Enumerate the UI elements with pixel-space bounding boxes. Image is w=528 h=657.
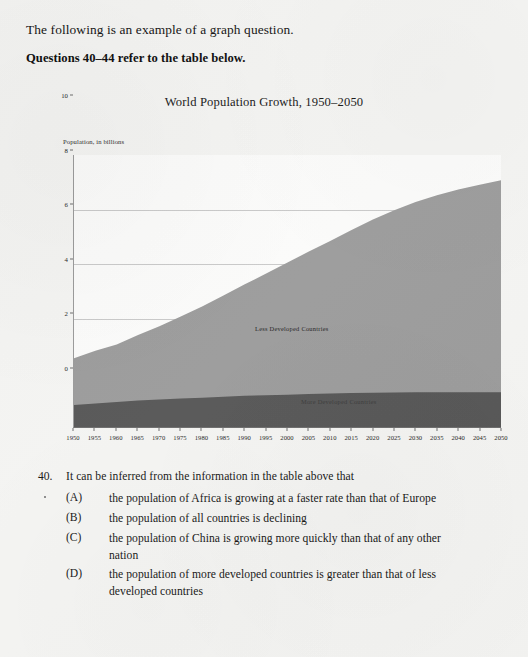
exam-page: The following is an example of a graph q… (0, 0, 528, 657)
answer-choice-letter: (A) (66, 491, 82, 504)
x-tick-label: 1970 (152, 434, 165, 441)
x-tick-label: 1965 (130, 434, 143, 441)
y-tick-mark (70, 95, 73, 96)
x-tick-label: 2010 (323, 434, 336, 441)
x-tick-mark (351, 428, 352, 431)
x-tick-label: 2035 (430, 434, 443, 441)
x-tick-mark (158, 428, 159, 431)
question-number: 40. (38, 470, 53, 483)
x-tick-label: 1955 (88, 434, 101, 441)
answer-choice-letter: (C) (66, 531, 81, 544)
x-tick-label: 1980 (195, 434, 208, 441)
answer-choice[interactable]: (D)the population of more developed coun… (0, 567, 528, 600)
plot-wrapper: Less Developed Countries More Developed … (73, 155, 501, 428)
x-tick-mark (137, 428, 138, 431)
x-tick-label: 2000 (280, 434, 293, 441)
x-tick-mark (458, 428, 459, 431)
answer-choice-text: the population of China is growing more … (109, 531, 469, 564)
stacked-area-series (74, 155, 501, 427)
y-tick-label: 8 (65, 146, 68, 153)
x-tick-label: 1975 (173, 434, 186, 441)
x-tick-mark (372, 428, 373, 431)
x-tick-mark (265, 428, 266, 431)
y-tick-mark (70, 149, 73, 150)
x-tick-mark (394, 428, 395, 431)
question-block: 40. It can be inferred from the informat… (0, 470, 528, 600)
area-less-developed (74, 180, 501, 427)
answer-choice[interactable]: (B)the population of all countries is de… (0, 511, 528, 528)
x-tick-label: 2030 (409, 434, 422, 441)
plot-area: Less Developed Countries More Developed … (73, 155, 501, 428)
series-label-less-developed: Less Developed Countries (255, 324, 328, 331)
x-tick-label: 2045 (473, 434, 486, 441)
answer-choice-text: the population of more developed countri… (109, 567, 469, 600)
x-tick-mark (180, 428, 181, 431)
x-tick-label: 2050 (494, 434, 507, 441)
x-tick-label: 1990 (237, 434, 250, 441)
x-tick-mark (436, 428, 437, 431)
answer-choice[interactable]: (C)the population of China is growing mo… (0, 531, 528, 564)
stray-mark-icon (44, 496, 46, 498)
y-tick-label: 6 (65, 201, 68, 208)
x-tick-label: 2005 (302, 434, 315, 441)
x-axis-ticks: 1950195519601965197019751980198519901995… (73, 428, 501, 448)
answer-choice-letter: (D) (66, 567, 82, 580)
question-stem: It can be inferred from the information … (66, 470, 354, 483)
x-tick-mark (501, 428, 502, 431)
x-tick-mark (415, 428, 416, 431)
x-tick-mark (115, 428, 116, 431)
x-tick-mark (201, 428, 202, 431)
answer-choice-text: the population of all countries is decli… (109, 511, 469, 528)
x-tick-mark (94, 428, 95, 431)
x-tick-mark (73, 428, 74, 431)
questions-reference-heading: Questions 40–44 refer to the table below… (26, 51, 246, 66)
x-tick-mark (329, 428, 330, 431)
x-tick-mark (479, 428, 480, 431)
series-label-more-developed: More Developed Countries (301, 398, 377, 405)
y-tick-label: 4 (65, 255, 68, 262)
chart-title: World Population Growth, 1950–2050 (0, 95, 528, 110)
x-tick-mark (287, 428, 288, 431)
intro-line: The following is an example of a graph q… (26, 22, 294, 38)
y-tick-label: 10 (61, 92, 68, 99)
x-tick-label: 2025 (387, 434, 400, 441)
x-tick-mark (222, 428, 223, 431)
x-tick-label: 2020 (366, 434, 379, 441)
y-tick-label: 0 (65, 365, 68, 372)
x-tick-mark (244, 428, 245, 431)
question-stem-row: 40. It can be inferred from the informat… (0, 470, 528, 488)
answer-choice-letter: (B) (66, 511, 81, 524)
x-tick-label: 1995 (259, 434, 272, 441)
x-tick-label: 2015 (344, 434, 357, 441)
chart-figure: World Population Growth, 1950–2050 Popul… (0, 95, 528, 455)
x-tick-label: 1960 (109, 434, 122, 441)
answer-choice-text: the population of Africa is growing at a… (109, 491, 469, 508)
x-tick-mark (308, 428, 309, 431)
x-tick-label: 2040 (451, 434, 464, 441)
y-tick-label: 2 (65, 310, 68, 317)
answer-choices: (A)the population of Africa is growing a… (0, 491, 528, 600)
answer-choice[interactable]: (A)the population of Africa is growing a… (0, 491, 528, 508)
x-tick-label: 1985 (216, 434, 229, 441)
x-tick-label: 1950 (66, 434, 79, 441)
y-axis-ticks: 0246810 (0, 95, 73, 368)
